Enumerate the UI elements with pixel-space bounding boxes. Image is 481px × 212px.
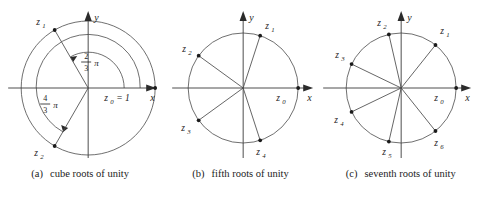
ray-z4 [351,88,401,112]
label-z3-sub: 3 [186,128,191,135]
label-z4-base: z [333,115,338,125]
caption-text-c: seventh roots of unity [365,168,456,181]
point-z3 [349,62,353,66]
label-z0-equals-one: z 0 = 1 [103,93,130,105]
x-axis-label: x [149,92,155,103]
panel-c-svg: x y z 0 z 1 z 2 z 3 [321,0,481,166]
ray-z1 [55,30,89,88]
ray-z6 [401,88,435,131]
ray-z2 [199,56,244,88]
two-thirds-pi-symbol: π [94,58,99,68]
y-axis-arrowhead [240,11,247,21]
label-z0-base: z [275,93,280,103]
label-z4: z 4 [333,115,344,127]
y-axis-label: y [406,12,412,23]
label-z3-sub: 3 [340,55,345,62]
caption-text-a: cube roots of unity [50,168,129,181]
caption-tag-c: (c) [346,168,358,181]
ray-z2 [55,88,89,146]
label-z1-base: z [264,21,269,31]
x-axis-label: x [464,92,470,103]
x-axis-label: x [306,92,312,103]
point-z1 [53,28,57,32]
label-z2-sub: 2 [383,23,387,30]
roots-of-unity-figure: x y z 1 z 2 z 0 = 1 [0,0,481,212]
two-thirds-pi-numerator: 2 [84,52,88,61]
y-axis-label: y [93,12,99,23]
caption-tag-b: (b) [192,168,204,181]
label-z2: z 2 [33,148,44,160]
ray-z3 [351,64,401,88]
ray-z1 [243,36,260,88]
four-thirds-pi-numerator: 4 [43,94,47,103]
label-z4-sub: 4 [340,120,344,127]
point-z4 [259,138,263,142]
label-z6: z 6 [433,138,444,150]
label-z2-base: z [376,18,381,28]
label-z3: z 3 [180,123,191,135]
x-axis-arrowhead [303,84,313,91]
label-z1: z 1 [439,26,449,38]
label-z3-base: z [334,50,339,60]
annotation-two-thirds-pi: 2 3 π [81,52,99,73]
label-z0-sub: 0 [440,98,444,105]
label-z2: z 2 [181,44,192,56]
label-z0-base: z [433,93,438,103]
annotation-four-thirds-pi: 4 3 π [40,94,58,115]
label-z4-sub: 4 [262,152,266,159]
label-z1-sub: 1 [446,31,449,38]
label-z2-base: z [33,148,38,158]
ray-z3 [199,88,244,120]
caption-text-b: fifth roots of unity [211,168,288,181]
ray-z2 [389,34,401,88]
label-z2-sub: 2 [40,153,44,160]
caption-panel-a: (a) cube roots of unity [0,168,160,181]
panel-fifth-roots: x y z 0 z 1 z 2 z 3 [160,0,320,212]
caption-panel-c: (c) seventh roots of unity [321,168,481,181]
label-z5-sub: 5 [388,152,392,159]
label-z1-sub: 1 [271,26,274,33]
panel-c-plot: x y z 0 z 1 z 2 z 3 [321,0,481,166]
point-z3 [197,118,201,122]
ray-z1 [401,45,435,88]
label-z4-base: z [255,147,260,157]
panel-a-plot: x y z 1 z 2 z 0 = 1 [0,0,160,166]
label-z0-sub: 0 [282,98,286,105]
ray-z4 [243,88,260,140]
point-z2 [197,54,201,58]
label-z6-base: z [433,138,438,148]
ray-z5 [389,88,401,142]
label-z3-base: z [180,123,185,133]
panel-b-plot: x y z 0 z 1 z 2 z 3 [160,0,320,166]
panel-cube-roots: x y z 1 z 2 z 0 = 1 [0,0,160,212]
four-thirds-pi-denominator: 3 [43,106,47,115]
point-z0 [297,86,301,90]
point-z0 [153,86,157,90]
label-z2-base: z [181,44,186,54]
label-z0: z 0 [275,93,286,105]
point-z1 [259,34,263,38]
caption-tag-a: (a) [31,168,43,181]
point-z5 [387,140,391,144]
label-z1: z 1 [35,17,45,29]
label-z2-sub: 2 [188,49,192,56]
point-z2 [53,144,57,148]
point-z2 [387,33,391,37]
label-z3: z 3 [334,50,345,62]
label-z5-base: z [381,147,386,157]
y-axis-label: y [248,12,254,23]
label-z2: z 2 [376,18,387,30]
panel-seventh-roots: x y z 0 z 1 z 2 z 3 [321,0,481,212]
point-z4 [349,110,353,114]
label-z0-sub: 0 [110,98,114,105]
label-z0: z 0 [433,93,444,105]
label-z1: z 1 [264,21,274,33]
four-thirds-pi-symbol: π [53,100,58,110]
label-z0-equation: = 1 [116,93,130,103]
label-z4: z 4 [255,147,266,159]
label-z5: z 5 [381,147,392,159]
label-z1-sub: 1 [42,22,45,29]
x-axis-arrowhead [461,84,471,91]
label-z1-base: z [35,17,40,27]
label-z0-base: z [103,93,108,103]
